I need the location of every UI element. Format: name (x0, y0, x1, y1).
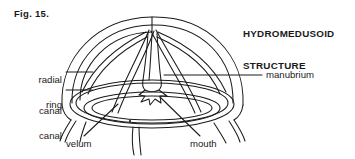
tentacle-5-b (229, 121, 240, 142)
diagram-title-line-1: HYDROMEDUSOID (243, 29, 334, 40)
bell-margin-right (234, 105, 243, 120)
manubrium-neck-b (159, 80, 161, 90)
label-manubrium: manubrium (266, 70, 314, 80)
label-ring-canal-line-1: ring (0, 100, 62, 110)
velum-ellipse-inner (92, 96, 212, 120)
label-ring-canal-line-2: canal (0, 131, 62, 141)
tentacle-5 (234, 120, 245, 141)
manubrium-neck (143, 80, 145, 90)
figure-caption: Fig. 15. (14, 9, 49, 19)
radial-canal-front-left (112, 30, 149, 112)
label-mouth: mouth (190, 139, 217, 149)
label-ring-canal: ring canal (0, 79, 62, 159)
bell-margin-left (62, 105, 71, 120)
manubrium-right-wall (157, 33, 161, 80)
tentacle-3 (132, 127, 134, 155)
statocyst-dot (129, 120, 131, 122)
figure-container: Fig. 15. HYDROMEDUSOID STRUCTURE radial … (0, 0, 355, 159)
label-velum: velum (66, 139, 92, 149)
tentacle-3-b (139, 127, 141, 155)
